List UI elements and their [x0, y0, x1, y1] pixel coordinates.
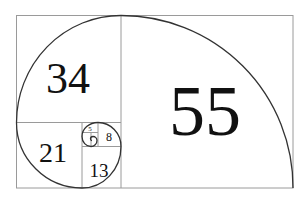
- label-21: 21: [39, 137, 67, 168]
- label-13: 13: [90, 160, 109, 181]
- label-55: 55: [169, 71, 241, 151]
- spiral-svg: 55 34 21 13 8 5: [0, 0, 301, 197]
- label-8: 8: [106, 130, 112, 144]
- fibonacci-spiral-diagram: 55 34 21 13 8 5: [0, 0, 301, 197]
- label-34: 34: [46, 54, 90, 103]
- label-5: 5: [88, 125, 92, 133]
